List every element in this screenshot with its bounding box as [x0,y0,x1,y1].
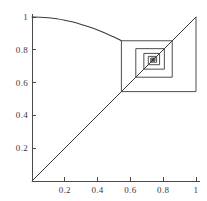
y-tick-label: 0.2 [0,143,28,153]
identity-diagonal-line [32,17,196,181]
x-tick-label: 0.2 [59,185,71,195]
plot-canvas [0,0,207,201]
x-tick-label: 0.6 [124,185,136,195]
map-function-curve [32,17,121,41]
y-axis-ticks [32,17,36,148]
x-tick-label: 0.8 [157,185,169,195]
x-axis-ticks [65,177,196,181]
y-tick-label: 0.8 [0,45,28,55]
y-tick-label: 1 [0,12,28,22]
y-tick-label: 0.6 [0,78,28,88]
cobweb-diagram-figure: 0.20.40.60.81 0.20.40.60.81 [0,0,207,201]
x-tick-label: 0.4 [92,185,104,195]
y-tick-label: 0.4 [0,110,28,120]
x-tick-label: 1 [194,185,199,195]
